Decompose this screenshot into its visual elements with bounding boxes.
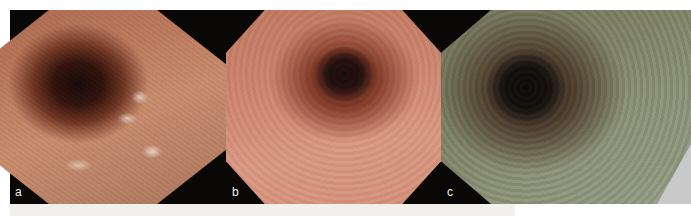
caption-strip	[10, 204, 515, 216]
endoscopy-figure: a b c	[10, 10, 659, 204]
endoscopy-image-b	[226, 10, 441, 204]
panel-label-b: b	[232, 186, 239, 198]
panel-a	[0, 10, 226, 204]
endoscopy-image-a	[0, 10, 226, 204]
panel-b	[226, 10, 441, 204]
panel-c	[441, 10, 691, 204]
endoscopy-image-c	[441, 10, 691, 204]
panel-label-c: c	[447, 186, 453, 198]
panel-label-a: a	[15, 186, 22, 198]
